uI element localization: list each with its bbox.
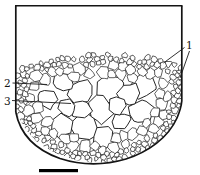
grain-cell <box>104 151 109 156</box>
grain-cell <box>24 126 29 132</box>
grain-cell <box>165 62 172 68</box>
grain-cell <box>138 60 143 65</box>
grain-cell <box>42 138 46 143</box>
grain-cell <box>128 128 139 141</box>
figure-canvas: 1 2 3 <box>0 0 200 175</box>
grain-cell <box>167 110 172 114</box>
grain-cell <box>34 137 39 142</box>
grain-cell <box>165 69 170 74</box>
grain-cell <box>124 148 129 154</box>
grain-cell <box>131 147 136 152</box>
grain-cell <box>160 125 165 131</box>
grain-cell <box>92 53 97 58</box>
grain-cell <box>79 56 85 62</box>
grain-cell <box>95 157 99 161</box>
grain-cell <box>24 87 29 92</box>
grain-cell <box>78 151 82 156</box>
grain-cell <box>119 58 124 63</box>
grain-cell <box>144 135 150 142</box>
grain-cell <box>144 54 150 60</box>
grain-cell <box>159 78 169 89</box>
grain-cell <box>70 134 79 142</box>
grain-cell <box>29 64 34 68</box>
grain-cell <box>85 155 90 160</box>
grain-cell <box>71 56 76 62</box>
grain-cell <box>25 74 29 79</box>
grain-cell <box>70 154 75 159</box>
grain-cell <box>112 114 131 128</box>
grain-cell <box>175 73 180 78</box>
grain-cell <box>153 133 158 138</box>
grain-cell <box>144 64 150 70</box>
grain-cell <box>158 59 163 64</box>
grain-cell <box>60 55 65 61</box>
grain-cell <box>44 145 50 150</box>
grain-cell <box>68 64 73 68</box>
grain-cell <box>55 149 61 155</box>
grain-cell <box>28 121 33 125</box>
grain-cell <box>96 67 109 79</box>
grain-cell <box>172 63 177 68</box>
grain-cell <box>90 61 95 67</box>
grain-cell <box>41 127 50 136</box>
grain-cell <box>113 57 119 62</box>
grain-cell <box>45 68 49 73</box>
grain-cell <box>80 140 91 153</box>
scale-bar <box>39 169 78 172</box>
grain-cell <box>56 61 61 67</box>
grain-cell <box>100 55 105 59</box>
label-zone-3: 3 <box>4 95 11 107</box>
macrostructure-diagram: 1 2 3 <box>0 0 200 175</box>
grain-cell <box>108 70 116 78</box>
grain-cell <box>56 57 60 61</box>
grain-cell <box>50 140 56 144</box>
grain-cell <box>65 56 71 62</box>
grain-cell <box>137 140 142 145</box>
grain-cell <box>122 52 128 58</box>
grain-cell <box>167 114 172 119</box>
label-zone-1: 1 <box>186 39 193 51</box>
label-zone-2: 2 <box>4 77 11 89</box>
grain-cell <box>58 142 64 148</box>
grain-cell <box>50 148 54 152</box>
grain-cell <box>109 97 126 115</box>
grain-cell <box>17 89 23 95</box>
grain-cell <box>52 62 56 67</box>
grain-cell <box>90 150 96 156</box>
grain-cell <box>60 150 65 155</box>
grain-cell <box>86 52 92 58</box>
